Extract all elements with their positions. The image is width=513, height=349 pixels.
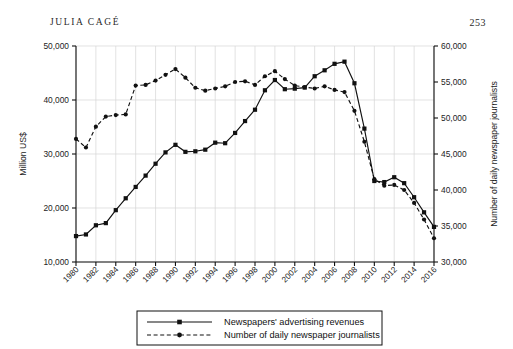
data-point-marker (94, 125, 98, 129)
data-point-marker (173, 67, 177, 71)
y-axis-left-tick-label: 30,000 (43, 149, 69, 159)
data-point-marker (84, 145, 88, 149)
data-point-marker (362, 127, 366, 131)
y-axis-right-tick-label: 40,000 (441, 185, 467, 195)
data-point-marker (104, 221, 108, 225)
y-axis-left-ticks: 10,00020,00030,00040,00050,000 (43, 41, 76, 267)
data-point-marker (402, 181, 406, 185)
data-point-marker (313, 86, 317, 90)
data-point-marker (233, 80, 237, 84)
x-axis-tick-label: 1980 (61, 265, 81, 285)
x-axis-tick-label: 2010 (360, 265, 380, 285)
data-point-marker (173, 143, 177, 147)
data-point-marker (332, 88, 336, 92)
data-point-marker (263, 88, 267, 92)
data-point-marker (332, 62, 336, 66)
data-point-marker (283, 87, 287, 91)
data-point-marker (323, 84, 327, 88)
data-point-marker (223, 141, 227, 145)
data-point-marker (352, 109, 356, 113)
data-point-marker (422, 217, 426, 221)
data-point-marker (372, 177, 376, 181)
data-point-marker (432, 236, 436, 240)
data-point-marker (382, 180, 386, 184)
data-point-marker (273, 69, 277, 73)
y-axis-right-tick-label: 60,000 (441, 41, 467, 51)
y-axis-left-tick-label: 10,000 (43, 257, 69, 267)
data-point-marker (233, 131, 237, 135)
y-axis-left-tick-label: 40,000 (43, 95, 69, 105)
figure-container: JULIA CAGÉ 253 10,00020,00030,00040,0005… (0, 0, 513, 349)
y-axis-left-title: Million US$ (18, 132, 28, 176)
data-point-marker (263, 74, 267, 78)
data-point-marker (183, 150, 187, 154)
x-axis-tick-label: 1998 (240, 265, 260, 285)
data-point-marker (382, 184, 386, 188)
data-point-marker (432, 225, 436, 229)
gridlines (76, 46, 434, 262)
data-point-marker (163, 73, 167, 77)
data-point-marker (193, 149, 197, 153)
x-axis-tick-label: 1982 (81, 265, 101, 285)
x-axis-tick-label: 1986 (121, 265, 141, 285)
data-point-marker (362, 140, 366, 144)
legend-marker (177, 320, 182, 325)
y-axis-right-tick-label: 35,000 (441, 221, 467, 231)
x-axis-tick-label: 1984 (101, 265, 121, 285)
data-point-marker (94, 223, 98, 227)
x-axis-tick-label: 2002 (280, 265, 300, 285)
legend-item-label: Number of daily newspaper journalists (224, 330, 380, 340)
x-axis-tick-label: 1992 (181, 265, 201, 285)
data-point-marker (253, 83, 257, 87)
data-point-marker (412, 195, 416, 199)
data-point-marker (303, 85, 307, 89)
y-axis-right-title: Number of daily newspaper journalists (489, 81, 499, 227)
data-point-marker (342, 90, 346, 94)
data-point-marker (114, 208, 118, 212)
data-point-marker (144, 83, 148, 87)
data-point-marker (134, 185, 138, 189)
data-point-marker (213, 86, 217, 90)
data-point-marker (293, 84, 297, 88)
y-axis-left-tick-label: 20,000 (43, 203, 69, 213)
x-axis-tick-label: 2016 (419, 265, 439, 285)
chart-legend: Newspapers' advertising revenuesNumber o… (137, 311, 382, 345)
data-point-marker (412, 201, 416, 205)
line-chart: 10,00020,00030,00040,00050,000 30,00035,… (0, 0, 513, 349)
x-axis-tick-label: 1990 (161, 265, 181, 285)
y-axis-right-tick-label: 30,000 (441, 257, 467, 267)
data-point-marker (273, 78, 277, 82)
data-point-marker (104, 114, 108, 118)
data-point-marker (213, 141, 217, 145)
data-point-marker (323, 68, 327, 72)
data-point-marker (253, 108, 257, 112)
x-axis-tick-label: 1996 (220, 265, 240, 285)
data-point-marker (74, 137, 78, 141)
x-axis-tick-label: 2014 (399, 265, 419, 285)
data-point-marker (243, 79, 247, 83)
data-point-marker (223, 84, 227, 88)
data-point-marker (134, 84, 138, 88)
page-number: 253 (470, 17, 487, 28)
y-axis-left-tick-label: 50,000 (43, 41, 69, 51)
x-axis-tick-label: 2000 (260, 265, 280, 285)
data-point-marker (193, 86, 197, 90)
data-point-marker (243, 119, 247, 123)
x-axis-tick-label: 1994 (201, 265, 221, 285)
x-axis-ticks: 1980198219841986198819901992199419961998… (61, 262, 439, 284)
data-point-marker (402, 188, 406, 192)
data-point-marker (124, 112, 128, 116)
data-point-marker (153, 78, 157, 82)
data-point-marker (283, 77, 287, 81)
data-point-marker (183, 76, 187, 80)
data-point-marker (352, 81, 356, 85)
y-axis-right-tick-label: 50,000 (441, 113, 467, 123)
data-point-marker (153, 162, 157, 166)
x-axis-tick-label: 2004 (300, 265, 320, 285)
data-point-marker (163, 150, 167, 154)
data-point-marker (203, 89, 207, 93)
x-axis-tick-label: 2012 (380, 265, 400, 285)
legend-marker (177, 333, 182, 338)
y-axis-right-ticks: 30,00035,00040,00045,00050,00055,00060,0… (434, 41, 467, 267)
y-axis-right-tick-label: 45,000 (441, 149, 467, 159)
